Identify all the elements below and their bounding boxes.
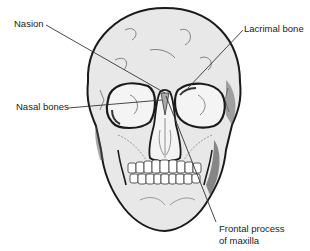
- label-lacrimal-bone: Lacrimal bone: [244, 23, 304, 34]
- label-nasal-bones: Nasal bones: [16, 101, 69, 112]
- skull-diagram: Nasion Lacrimal bone Nasal bones Frontal…: [0, 0, 310, 251]
- skull-illustration: [0, 0, 310, 251]
- upper-teeth: [128, 160, 201, 173]
- label-frontal-process-line1: Frontal process: [219, 223, 284, 234]
- right-orbit: [175, 84, 225, 128]
- label-nasion: Nasion: [14, 18, 44, 29]
- label-frontal-process-line2: of maxilla: [219, 235, 259, 246]
- left-orbit: [107, 83, 155, 128]
- lower-teeth: [130, 174, 200, 184]
